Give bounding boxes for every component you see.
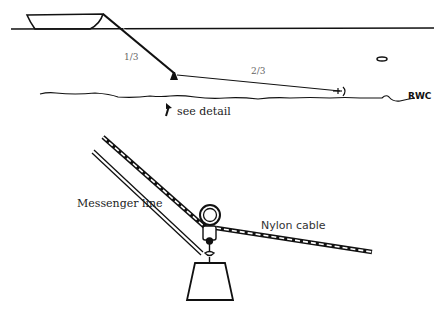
arrow-up-icon [166,103,172,116]
boat [27,14,103,29]
fish-icon [377,57,387,61]
messenger-line-label: Messenger line [77,198,163,209]
fraction-one-third: 1/3 [124,53,138,62]
end-marker [333,87,345,96]
weight [187,263,233,300]
cable-segment [177,75,340,91]
riverbed [40,93,415,102]
diagram-canvas [0,0,444,311]
nylon-cable-upper [103,137,206,228]
shackle [203,226,216,263]
see-detail-label: see detail [177,106,231,117]
fraction-two-thirds: 2/3 [251,67,265,76]
riverbed-marker-label: RWC [408,92,431,101]
anchor-weight [170,72,178,80]
tether-line [103,14,174,73]
nylon-cable-label: Nylon cable [261,220,326,231]
